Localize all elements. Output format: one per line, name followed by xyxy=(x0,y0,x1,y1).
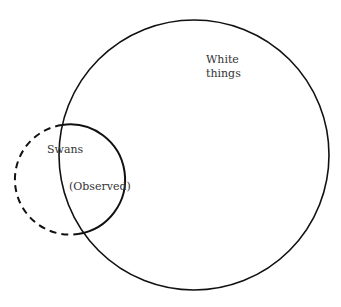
white-things-label-line1: White xyxy=(206,53,239,66)
white-things-label-line2: things xyxy=(206,67,241,80)
white-things-circle xyxy=(59,20,329,290)
venn-diagram: White things Swans (Observed) xyxy=(0,0,341,307)
swans-label: Swans xyxy=(47,143,84,156)
observed-label: (Observed) xyxy=(69,180,131,193)
